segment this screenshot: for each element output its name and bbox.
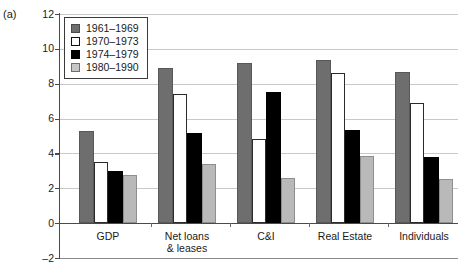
legend-swatch-1970-1973	[71, 37, 80, 46]
x-tick	[388, 223, 389, 227]
y-axis-label-10: 10	[14, 43, 54, 53]
y-tick--2	[55, 258, 60, 259]
legend-item: 1970–1973	[71, 35, 139, 48]
x-tick	[230, 223, 231, 227]
y-tick-0	[55, 223, 60, 224]
bar-individuals-series-3	[424, 157, 439, 223]
legend-swatch-1980-1990	[71, 63, 80, 72]
x-tick	[309, 223, 310, 227]
y-axis-label-0: 0	[14, 218, 54, 228]
y-tick-2	[55, 188, 60, 189]
x-axis-category-label: Individuals	[374, 230, 466, 242]
bar-individuals-series-2	[410, 103, 425, 223]
legend-label: 1961–1969	[86, 23, 139, 34]
bar-real-estate-series-1	[316, 60, 331, 223]
y-tick-4	[55, 153, 60, 154]
y-axis-label-4: 4	[14, 148, 54, 158]
gridline-12	[60, 14, 458, 15]
legend-item: 1974–1979	[71, 48, 139, 61]
bar-net-loans-series-1	[158, 68, 173, 223]
legend-swatch-1974-1979	[71, 50, 80, 59]
bar-net-loans-series-3	[187, 133, 202, 224]
y-axis-label-6: 6	[14, 113, 54, 123]
y-axis-label-12: 12	[14, 9, 54, 19]
legend-swatch-1961-1969	[71, 24, 80, 33]
bar-gdp-series-1	[79, 131, 94, 223]
bar-real-estate-series-3	[345, 130, 360, 223]
x-tick	[151, 223, 152, 227]
bar-gdp-series-4	[123, 175, 138, 223]
bar-net-loans-series-2	[173, 94, 188, 223]
gridline-0	[60, 223, 458, 224]
bar-real-estate-series-2	[331, 73, 346, 223]
bar-individuals-series-4	[439, 179, 454, 223]
y-axis-label--2: –2	[14, 253, 54, 263]
bar-gdp-series-3	[108, 171, 123, 223]
legend-item: 1980–1990	[71, 61, 139, 74]
chart-legend: 1961–1969 1970–1973 1974–1979 1980–1990	[64, 17, 148, 79]
y-tick-6	[55, 119, 60, 120]
y-axis-label-2: 2	[14, 183, 54, 193]
bar-individuals-series-1	[395, 72, 410, 224]
y-tick-10	[55, 49, 60, 50]
y-tick-12	[55, 14, 60, 15]
legend-label: 1980–1990	[86, 62, 139, 73]
category-label-line: & leases	[137, 242, 237, 254]
bar-c-i-series-3	[266, 92, 281, 223]
legend-label: 1970–1973	[86, 36, 139, 47]
gridline--2	[60, 258, 458, 259]
y-axis-label-8: 8	[14, 78, 54, 88]
y-tick-8	[55, 84, 60, 85]
category-label-line: Individuals	[374, 230, 466, 242]
bar-c-i-series-2	[252, 139, 267, 224]
bar-c-i-series-4	[281, 178, 296, 223]
bar-real-estate-series-4	[360, 156, 375, 223]
legend-label: 1974–1979	[86, 49, 139, 60]
bar-c-i-series-1	[237, 63, 252, 223]
bar-gdp-series-2	[94, 162, 109, 223]
legend-item: 1961–1969	[71, 22, 139, 35]
bar-net-loans-series-4	[202, 164, 217, 223]
